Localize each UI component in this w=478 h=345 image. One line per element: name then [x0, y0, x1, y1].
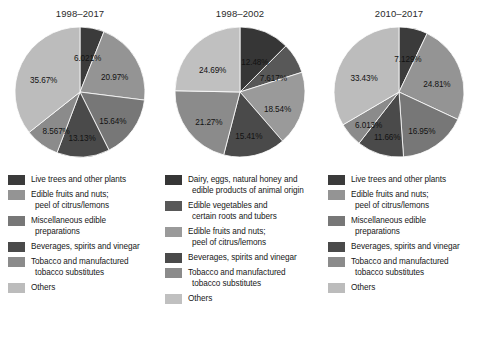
legend-item: Beverages, spirits and vinegar: [328, 241, 478, 252]
legend-color-swatch: [8, 190, 25, 200]
legend-color-swatch: [328, 257, 345, 267]
legend-label: Beverages, spirits and vinegar: [188, 252, 297, 263]
legend-label: Miscellaneous ediblepreparations: [31, 215, 106, 237]
pie-chart-panels: 1998–2017 6.021%20.97%15.64%13.13%8.567%…: [0, 0, 478, 308]
legend-label: Edible fruits and nuts;peel of citrus/le…: [188, 226, 266, 248]
pie-chart: 12.48%7.617%18.54%15.41%21.27%24.69%: [174, 26, 306, 158]
chart-panel-1998-2002: 1998–2002 12.48%7.617%18.54%15.41%21.27%…: [160, 0, 320, 308]
pie-slice-label: 7.617%: [260, 73, 287, 82]
legend-item: Dairy, eggs, natural honey andedible pro…: [165, 174, 320, 196]
legend-label: Tobacco and manufacturedtobacco substitu…: [188, 267, 286, 289]
legend-color-swatch: [8, 283, 25, 293]
chart-legend: Live trees and other plantsEdible fruits…: [320, 174, 478, 293]
legend-color-swatch: [165, 201, 182, 211]
legend-label-line2: peel of citrus/lemons: [351, 200, 429, 211]
pie-slice: [175, 27, 240, 92]
legend-item: Tobacco and manufacturedtobacco substitu…: [165, 267, 320, 289]
legend-item: Beverages, spirits and vinegar: [165, 252, 320, 263]
legend-label-line2: preparations: [31, 226, 106, 237]
legend-item: Live trees and other plants: [328, 174, 478, 185]
pie-slice-label: 20.97%: [101, 73, 128, 82]
legend-label: Edible fruits and nuts;peel of citrus/le…: [351, 189, 429, 211]
legend-color-swatch: [165, 268, 182, 278]
legend-label: Live trees and other plants: [31, 174, 126, 185]
legend-label-line2: edible products of animal origin: [188, 185, 304, 196]
pie-slice-label: 8.567%: [43, 126, 70, 135]
legend-color-swatch: [8, 216, 25, 226]
chart-panel-2010-2017: 2010–2017 7.129%24.81%16.95%11.66%6.013%…: [320, 0, 478, 308]
pie-slice-label: 21.27%: [195, 117, 222, 126]
pie-slice-label: 15.64%: [99, 117, 126, 126]
legend-label-line2: peel of citrus/lemons: [188, 237, 266, 248]
chart-legend: Live trees and other plantsEdible fruits…: [0, 174, 160, 293]
legend-color-swatch: [328, 283, 345, 293]
chart-title: 1998–2017: [0, 8, 160, 20]
pie-chart-area: 7.129%24.81%16.95%11.66%6.013%33.43%: [320, 20, 478, 172]
legend-label: Others: [351, 282, 375, 293]
legend-label: Miscellaneous ediblepreparations: [351, 215, 426, 237]
pie-slice-label: 33.43%: [350, 73, 377, 82]
legend-item: Edible fruits and nuts;peel of citrus/le…: [8, 189, 160, 211]
pie-chart-area: 6.021%20.97%15.64%13.13%8.567%35.67%: [0, 20, 160, 172]
legend-item: Edible fruits and nuts;peel of citrus/le…: [328, 189, 478, 211]
legend-label: Edible fruits and nuts;peel of citrus/le…: [31, 189, 109, 211]
pie-slice-label: 6.021%: [74, 54, 101, 63]
legend-color-swatch: [328, 190, 345, 200]
pie-slice-label: 15.41%: [235, 131, 262, 140]
pie-slice-label: 6.013%: [355, 120, 382, 129]
legend-color-swatch: [8, 175, 25, 185]
legend-color-swatch: [165, 175, 182, 185]
pie-slice-label: 18.54%: [264, 104, 291, 113]
legend-label-line2: tobacco substitutes: [188, 278, 286, 289]
chart-title: 2010–2017: [320, 8, 478, 20]
legend-color-swatch: [8, 242, 25, 252]
legend-item: Edible vegetables andcertain roots and t…: [165, 200, 320, 222]
chart-panel-1998-2017: 1998–2017 6.021%20.97%15.64%13.13%8.567%…: [0, 0, 160, 308]
legend-label: Live trees and other plants: [351, 174, 446, 185]
legend-label: Edible vegetables andcertain roots and t…: [188, 200, 277, 222]
legend-label-line2: tobacco substitutes: [351, 267, 449, 278]
pie-slice-label: 24.81%: [423, 80, 450, 89]
pie-chart-area: 12.48%7.617%18.54%15.41%21.27%24.69%: [160, 20, 320, 172]
legend-item: Beverages, spirits and vinegar: [8, 241, 160, 252]
legend-item: Miscellaneous ediblepreparations: [8, 215, 160, 237]
legend-label-line2: preparations: [351, 226, 426, 237]
legend-item: Live trees and other plants: [8, 174, 160, 185]
legend-color-swatch: [328, 216, 345, 226]
legend-color-swatch: [328, 175, 345, 185]
legend-label: Dairy, eggs, natural honey andedible pro…: [188, 174, 304, 196]
pie-slice-label: 11.66%: [374, 132, 401, 141]
legend-color-swatch: [165, 227, 182, 237]
legend-label: Beverages, spirits and vinegar: [351, 241, 460, 252]
legend-label-line2: peel of citrus/lemons: [31, 200, 109, 211]
pie-slice-label: 16.95%: [408, 127, 435, 136]
pie-slice-label: 35.67%: [30, 76, 57, 85]
pie-slice-label: 7.129%: [394, 54, 421, 63]
legend-color-swatch: [328, 242, 345, 252]
legend-label: Others: [31, 282, 55, 293]
legend-item: Tobacco and manufacturedtobacco substitu…: [328, 256, 478, 278]
legend-color-swatch: [8, 257, 25, 267]
legend-item: Miscellaneous ediblepreparations: [328, 215, 478, 237]
pie-chart: 7.129%24.81%16.95%11.66%6.013%33.43%: [333, 26, 465, 158]
legend-label: Tobacco and manufacturedtobacco substitu…: [351, 256, 449, 278]
legend-item: Edible fruits and nuts;peel of citrus/le…: [165, 226, 320, 248]
legend-item: Others: [328, 282, 478, 293]
chart-legend: Dairy, eggs, natural honey andedible pro…: [160, 174, 320, 304]
legend-label: Tobacco and manufacturedtobacco substitu…: [31, 256, 129, 278]
legend-label: Beverages, spirits and vinegar: [31, 241, 140, 252]
pie-slice-label: 13.13%: [68, 134, 95, 143]
chart-title: 1998–2002: [160, 8, 320, 20]
legend-label: Others: [188, 293, 212, 304]
legend-color-swatch: [165, 253, 182, 263]
pie-slice-label: 12.48%: [241, 57, 268, 66]
legend-color-swatch: [165, 294, 182, 304]
legend-label-line2: certain roots and tubers: [188, 211, 277, 222]
legend-item: Others: [8, 282, 160, 293]
pie-slice-label: 24.69%: [199, 66, 226, 75]
pie-chart: 6.021%20.97%15.64%13.13%8.567%35.67%: [14, 26, 146, 158]
legend-label-line2: tobacco substitutes: [31, 267, 129, 278]
legend-item: Tobacco and manufacturedtobacco substitu…: [8, 256, 160, 278]
legend-item: Others: [165, 293, 320, 304]
